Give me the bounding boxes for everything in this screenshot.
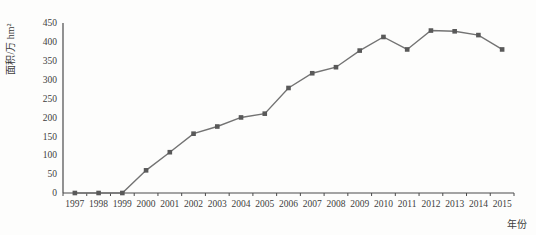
y-tick-label: 450 [43,18,58,28]
y-tick-label: 400 [43,37,58,47]
data-point [334,65,339,70]
x-tick-label: 2003 [208,199,227,209]
y-tick-label: 100 [43,150,58,160]
data-point [239,115,244,120]
line-chart: 0501001502002503003504004501997199819992… [0,0,536,235]
x-tick-label: 1998 [89,199,108,209]
y-tick-label: 50 [48,169,58,179]
x-tick-label: 2011 [398,199,417,209]
y-tick-label: 250 [43,94,58,104]
y-tick-label: 350 [43,56,58,66]
data-point [168,150,173,155]
figure-area-line-chart: 0501001502002503003504004501997199819992… [0,0,536,235]
data-point [452,29,457,34]
x-tick-label: 2014 [469,199,488,209]
x-tick-label: 2001 [160,199,179,209]
data-point [215,124,220,129]
data-point [73,191,78,196]
x-tick-label: 2010 [374,199,393,209]
x-tick-label: 2004 [232,199,251,209]
data-point [429,28,434,33]
data-point [96,191,101,196]
x-tick-label: 2009 [350,199,369,209]
x-axis-title: 年份 [507,218,527,230]
y-tick-label: 0 [52,188,57,198]
data-point [381,35,386,40]
y-tick-label: 150 [43,132,58,142]
data-point [500,47,505,52]
data-point [405,47,410,52]
data-point [310,71,315,76]
x-tick-label: 2012 [421,199,440,209]
data-point [262,111,267,116]
data-point [286,86,291,91]
data-point [476,33,481,38]
y-axis-title: 面积/万 hm² [5,23,16,74]
y-tick-label: 300 [43,75,58,85]
x-tick-label: 2006 [279,199,298,209]
x-tick-label: 2000 [137,199,156,209]
x-tick-label: 1997 [65,199,84,209]
data-point [144,168,149,173]
x-tick-label: 2013 [445,199,464,209]
x-tick-label: 2005 [255,199,274,209]
x-tick-label: 2007 [303,199,322,209]
data-point [357,48,362,53]
x-tick-label: 1999 [113,199,132,209]
data-point [120,191,125,196]
data-point [191,131,196,136]
x-tick-label: 2008 [326,199,345,209]
y-tick-label: 200 [43,113,58,123]
x-tick-label: 2015 [493,199,512,209]
x-tick-label: 2002 [184,199,203,209]
